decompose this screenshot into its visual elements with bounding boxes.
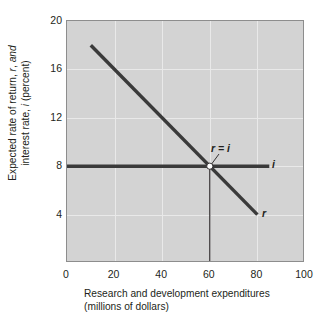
y-axis-title-and: and: [7, 45, 18, 62]
equilibrium-point-marker: [207, 163, 213, 169]
x-axis-title-line2: (millions of dollars): [84, 300, 314, 313]
chart-figure: r i r = i 20 16 12 8 4 0 20 40 60 80 100…: [0, 0, 323, 325]
y-tick-label: 4: [36, 209, 62, 220]
x-tick-label: 40: [144, 269, 178, 280]
y-axis-title-text-3: interest rate,: [20, 106, 31, 165]
x-tick-label: 60: [192, 269, 226, 280]
y-axis-title-text-1: Expected rate of return,: [7, 71, 18, 180]
y-axis-title-text-2: ,: [7, 62, 18, 68]
curve-r: [91, 45, 258, 214]
x-axis-title: Research and development expenditures (m…: [84, 287, 314, 313]
x-axis-title-line1: Research and development expenditures: [84, 287, 314, 300]
y-tick-label: 12: [36, 112, 62, 123]
curve-label-r: r: [262, 208, 266, 219]
y-tick-label: 20: [36, 15, 62, 26]
y-tick-label: 16: [36, 63, 62, 74]
x-tick-label: 80: [239, 269, 273, 280]
curve-label-i: i: [272, 159, 275, 170]
x-tick-label: 100: [287, 269, 321, 280]
equilibrium-label: r = i: [211, 143, 230, 154]
y-axis-title-var-r: r: [7, 68, 18, 71]
x-axis-tick-labels: 0 20 40 60 80 100: [0, 269, 323, 283]
x-tick-label: 20: [97, 269, 131, 280]
y-axis-title-text-4: (percent): [20, 60, 31, 104]
y-tick-label: 8: [36, 160, 62, 171]
x-tick-label: 0: [49, 269, 83, 280]
y-axis-title-var-i: i: [20, 104, 31, 106]
y-axis-title: Expected rate of return, r, and interest…: [6, 18, 32, 208]
plot-area: [66, 20, 304, 262]
curves-overlay: [67, 21, 304, 262]
